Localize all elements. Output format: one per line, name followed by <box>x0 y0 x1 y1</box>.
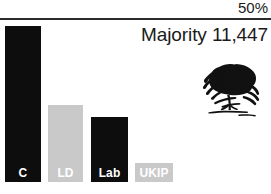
election-result-bar-chart: 50% Majority 11,447 CLDLabUKIP <box>0 0 271 194</box>
bar-label-ukip: UKIP <box>135 163 173 182</box>
axis-max-label: 50% <box>238 0 268 17</box>
bar-label-c: C <box>5 163 41 182</box>
bar-label-strip: CLDLabUKIP <box>0 163 271 182</box>
bar-label-lab: Lab <box>91 163 128 182</box>
conservative-oak-tree-logo <box>195 58 261 120</box>
bar-c <box>5 26 41 181</box>
bar-label-ld: LD <box>48 163 83 182</box>
